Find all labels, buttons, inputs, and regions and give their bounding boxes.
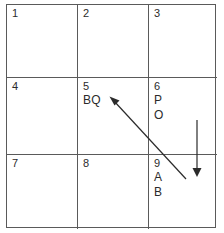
cell-number-6: 6: [154, 80, 217, 93]
cell-number-9: 9: [154, 157, 217, 170]
cell-text-9-line-1: A: [154, 170, 217, 185]
cell-number-3: 3: [154, 7, 217, 20]
cell-text-6-line-1: P: [154, 93, 217, 108]
grid-table: 1 2 3 4 5 BQ 6 P O 7 8 9 A B: [6, 4, 216, 228]
grid-cell-2[interactable]: 2: [78, 5, 149, 78]
cell-text-9-line-2: B: [154, 185, 217, 200]
cell-number-7: 7: [12, 157, 77, 170]
grid-cell-5[interactable]: 5 BQ: [78, 78, 149, 155]
cell-number-5: 5: [83, 80, 148, 93]
grid-cell-6[interactable]: 6 P O: [149, 78, 217, 155]
cell-number-1: 1: [12, 7, 77, 20]
cell-text-6-line-2: O: [154, 108, 217, 123]
cell-number-2: 2: [83, 7, 148, 20]
cell-number-8: 8: [83, 157, 148, 170]
grid-cell-8[interactable]: 8: [78, 155, 149, 229]
grid-cell-3[interactable]: 3: [149, 5, 217, 78]
grid-cell-9[interactable]: 9 A B: [149, 155, 217, 229]
cell-text-5-line-1: BQ: [83, 93, 148, 108]
diagram-canvas: 1 2 3 4 5 BQ 6 P O 7 8 9 A B: [0, 0, 224, 233]
cell-number-4: 4: [12, 80, 77, 93]
grid-cell-4[interactable]: 4: [7, 78, 78, 155]
grid-cell-1[interactable]: 1: [7, 5, 78, 78]
grid-cell-7[interactable]: 7: [7, 155, 78, 229]
